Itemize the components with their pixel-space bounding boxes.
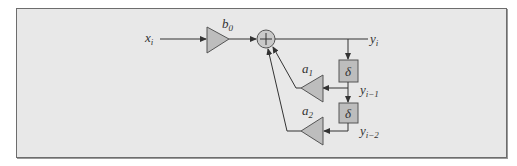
input-label: xi <box>144 30 154 47</box>
a2-feedback-wire <box>268 49 301 131</box>
delay1-symbol: δ <box>345 64 352 79</box>
gain-b0-label: b0 <box>222 16 234 33</box>
gain-a2-triangle <box>301 117 323 145</box>
a1-feedback-wire <box>273 47 301 88</box>
delay1-output-label: yi−1 <box>358 82 379 99</box>
gain-a1-triangle <box>301 75 323 102</box>
delay2-to-a2-wire <box>324 123 348 131</box>
output-label: yi <box>368 31 379 48</box>
delay2-symbol: δ <box>345 106 352 121</box>
block-diagram: xi b0 yi δ yi−1 a1 δ yi−2 a2 <box>0 0 517 166</box>
delay2-output-label: yi−2 <box>358 123 379 140</box>
gain-a2-label: a2 <box>302 103 314 120</box>
gain-a1-label: a1 <box>302 61 313 78</box>
